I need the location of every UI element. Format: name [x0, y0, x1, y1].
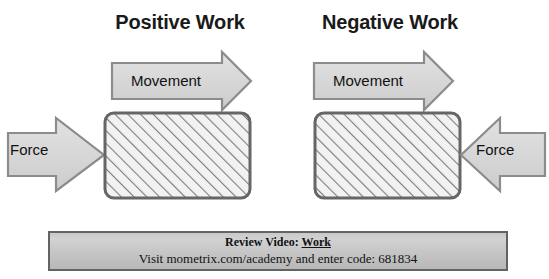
object-block-negative: [315, 113, 460, 198]
movement-label-negative: Movement: [320, 72, 416, 90]
diagram-canvas: Positive Work Negative Work: [0, 0, 549, 279]
review-video-prefix: Review Video:: [225, 235, 301, 249]
review-video-link[interactable]: Work: [302, 235, 331, 249]
force-label-positive: Force: [10, 141, 72, 159]
force-label-negative: Force: [476, 141, 540, 159]
review-video-banner: Review Video: Work Visit mometrix.com/ac…: [48, 231, 508, 271]
panel-title-negative: Negative Work: [300, 10, 480, 34]
movement-label-positive: Movement: [118, 72, 214, 90]
panel-title-positive: Positive Work: [90, 10, 270, 34]
object-block-positive: [105, 113, 250, 198]
review-video-line: Review Video: Work: [225, 235, 331, 250]
academy-code-line: Visit mometrix.com/academy and enter cod…: [139, 251, 418, 267]
